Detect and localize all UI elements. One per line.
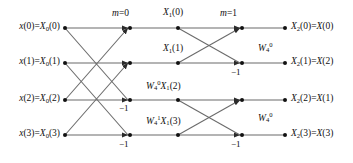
minus-one-stage1-row-2: −1 (119, 103, 129, 113)
node-s2-r2 (240, 98, 244, 102)
node-in-r0 (63, 26, 67, 30)
node-s2-r3 (240, 133, 244, 137)
minus-one-stage1-row-3: −1 (119, 139, 129, 149)
intermediate-label-row-3: W41X1(3) (146, 115, 181, 127)
input-label-row-1: x(1)=X0(1) (0, 57, 60, 67)
stage-label-m0: m=0 (112, 8, 129, 18)
node-out-r2 (283, 98, 287, 102)
fft-butterfly-diagram: m=0 m=1 x(0)=X0(0) x(1)=X0(1) x(2)=X0(2)… (0, 0, 353, 163)
output-label-row-0: X2(0)=X(0) (291, 22, 333, 32)
node-mid-r0 (176, 26, 180, 30)
node-s2-r1 (240, 61, 244, 65)
intermediate-label-row-0: X1(0) (163, 8, 183, 18)
node-out-r1 (283, 61, 287, 65)
minus-one-stage2-row-1: −1 (231, 67, 241, 77)
node-s1-r0 (128, 26, 132, 30)
node-s2-r0 (240, 26, 244, 30)
node-out-r3 (283, 133, 287, 137)
twiddle-label-stage2-row-1: W40 (258, 42, 273, 54)
twiddle-label-stage2-row-3: W40 (258, 112, 273, 124)
intermediate-label-row-1: X1(1) (163, 44, 183, 54)
node-s1-r2 (128, 98, 132, 102)
node-in-r2 (63, 98, 67, 102)
input-label-row-0: x(0)=X0(0) (0, 22, 60, 32)
node-s1-r3 (128, 133, 132, 137)
node-out-r0 (283, 26, 287, 30)
output-label-row-2: X2(2)=X(1) (291, 94, 333, 104)
output-label-row-3: X2(3)=X(3) (291, 129, 333, 139)
node-mid-r2 (176, 98, 180, 102)
node-in-r3 (63, 133, 67, 137)
minus-one-stage2-row-3: −1 (231, 139, 241, 149)
node-s1-r1 (128, 61, 132, 65)
node-in-r1 (63, 61, 67, 65)
node-mid-r1 (176, 61, 180, 65)
intermediate-label-row-2: W40X1(2) (146, 80, 181, 92)
node-mid-r3 (176, 133, 180, 137)
input-label-row-3: x(3)=X0(3) (0, 129, 60, 139)
output-label-row-1: X2(1)=X(2) (291, 57, 333, 67)
stage-label-m1: m=1 (220, 8, 237, 18)
input-label-row-2: x(2)=X0(2) (0, 94, 60, 104)
